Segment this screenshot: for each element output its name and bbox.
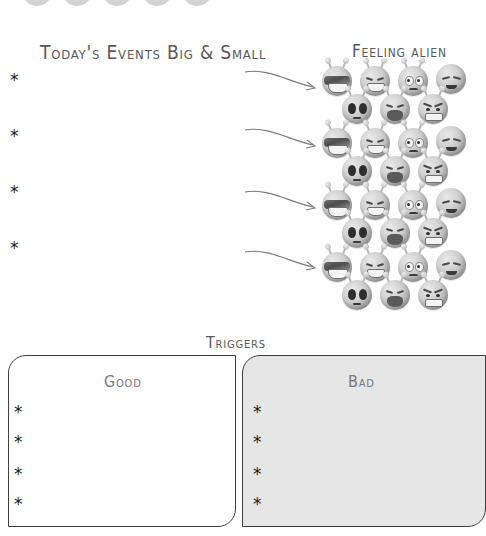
angry-eye-icon — [426, 170, 430, 173]
feeling-face-group[interactable] — [322, 62, 472, 124]
bad-box-label: Bad — [348, 372, 375, 391]
flat-mouth-icon — [353, 179, 361, 181]
grimace-mouth-icon — [425, 299, 443, 307]
feeling-face-group[interactable] — [322, 124, 472, 186]
flat-mouth-icon — [353, 117, 361, 119]
pupil-icon — [407, 265, 410, 268]
angry-eye-icon — [426, 108, 430, 111]
antenna-icon — [418, 247, 422, 254]
frown-mouth-icon — [409, 212, 418, 214]
antenna-icon — [380, 247, 384, 254]
antenna-icon — [438, 275, 442, 282]
cutoff-face-icon — [62, 0, 92, 6]
feeling-face-group[interactable] — [322, 186, 472, 248]
triggers-section-title: Triggers — [206, 333, 266, 352]
connector-arrow-icon — [243, 68, 331, 96]
cutoff-face-icon — [142, 0, 172, 6]
event-bullet-asterisk[interactable]: * — [10, 184, 19, 201]
antenna-icon — [418, 123, 422, 130]
antenna-icon — [342, 123, 346, 130]
connector-arrow-icon — [243, 126, 331, 154]
angry-eye-icon — [426, 294, 430, 297]
teary-eye-icon — [348, 289, 356, 300]
frown-mouth-icon — [409, 150, 418, 152]
teary-eye-icon — [359, 165, 367, 176]
grimace-mouth-icon — [425, 113, 443, 121]
good-trigger-bullet-asterisk[interactable]: * — [14, 466, 23, 483]
antenna-icon — [438, 213, 442, 220]
grimace-mouth-icon — [425, 175, 443, 183]
event-bullet-asterisk[interactable]: * — [10, 72, 19, 89]
angry-eye-icon — [436, 170, 440, 173]
good-trigger-bullet-asterisk[interactable]: * — [14, 496, 23, 513]
flat-mouth-icon — [353, 303, 361, 305]
antenna-icon — [438, 151, 442, 158]
cutoff-face-icon — [22, 0, 52, 6]
pupil-icon — [417, 141, 420, 144]
antenna-icon — [342, 185, 346, 192]
bad-trigger-bullet-asterisk[interactable]: * — [253, 496, 262, 513]
teary-eye-icon — [359, 103, 367, 114]
face-ball — [342, 280, 372, 310]
event-bullet-asterisk[interactable]: * — [10, 240, 19, 257]
angry-eye-icon — [426, 232, 430, 235]
good-trigger-bullet-asterisk[interactable]: * — [14, 404, 23, 421]
angry-eye-icon — [436, 232, 440, 235]
events-section-title: Today's Events Big & Small — [40, 41, 266, 63]
pupil-icon — [407, 79, 410, 82]
pupil-icon — [407, 141, 410, 144]
antenna-icon — [438, 89, 442, 96]
antenna-icon — [380, 61, 384, 68]
pupil-icon — [417, 265, 420, 268]
angry-eye-icon — [436, 294, 440, 297]
open-cry-mouth-icon — [387, 234, 403, 245]
connector-arrow-icon — [243, 248, 331, 276]
teary-eye-icon — [348, 165, 356, 176]
antenna-icon — [418, 61, 422, 68]
frown-mouth-icon — [409, 274, 418, 276]
open-cry-mouth-icon — [387, 172, 403, 183]
good-trigger-bullet-asterisk[interactable]: * — [14, 434, 23, 451]
cutoff-face-icon — [102, 0, 132, 6]
teary-eye-icon — [359, 289, 367, 300]
pupil-icon — [407, 203, 410, 206]
open-cry-mouth-icon — [387, 110, 403, 121]
top-cutoff-faces-strip — [0, 0, 476, 14]
pupil-icon — [417, 203, 420, 206]
event-bullet-asterisk[interactable]: * — [10, 128, 19, 145]
good-box-label: Good — [104, 372, 142, 391]
antenna-icon — [418, 185, 422, 192]
antenna-icon — [342, 247, 346, 254]
pupil-icon — [417, 79, 420, 82]
alien-face-crying-open-icon[interactable] — [380, 280, 410, 310]
open-cry-mouth-icon — [387, 296, 403, 307]
bad-trigger-bullet-asterisk[interactable]: * — [253, 404, 262, 421]
bad-trigger-bullet-asterisk[interactable]: * — [253, 434, 262, 451]
flat-mouth-icon — [353, 241, 361, 243]
angry-eye-icon — [436, 108, 440, 111]
antenna-icon — [380, 123, 384, 130]
antenna-icon — [342, 61, 346, 68]
bad-trigger-bullet-asterisk[interactable]: * — [253, 466, 262, 483]
alien-face-angry-grimace-icon[interactable] — [418, 280, 448, 310]
cutoff-face-icon — [182, 0, 212, 6]
grimace-mouth-icon — [425, 237, 443, 245]
teary-eye-icon — [359, 227, 367, 238]
frown-mouth-icon — [409, 88, 418, 90]
antenna-icon — [380, 185, 384, 192]
feeling-face-group[interactable] — [322, 248, 472, 310]
teary-eye-icon — [348, 103, 356, 114]
alien-face-teary-eyes-icon[interactable] — [342, 280, 372, 310]
connector-arrow-icon — [243, 188, 331, 216]
teary-eye-icon — [348, 227, 356, 238]
